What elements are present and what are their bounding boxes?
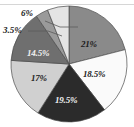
pie-callout-label-3-5: 3.5% [3, 26, 22, 35]
pie-callout-label-6: 6% [21, 9, 33, 18]
pie-label-21: 21% [81, 40, 97, 49]
pie-label-19-5: 19.5% [55, 96, 77, 105]
pie-chart-figure: 21% 18.5% 19.5% 17% 14.5% 3.5% 6% [0, 0, 134, 127]
pie-label-18-5: 18.5% [83, 70, 105, 79]
pie-label-14-5: 14.5% [27, 49, 49, 58]
pie-chart-canvas [0, 0, 134, 127]
pie-label-17: 17% [31, 74, 47, 83]
